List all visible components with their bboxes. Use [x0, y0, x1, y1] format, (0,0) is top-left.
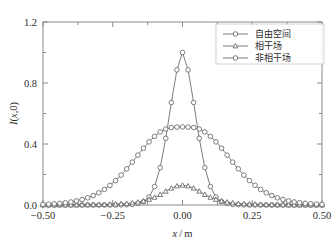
series-marker: [208, 184, 213, 189]
series-marker: [175, 68, 180, 73]
series-marker: [281, 197, 286, 202]
series-marker: [102, 187, 107, 192]
series-marker: [320, 202, 325, 207]
x-tick-label: −0.50: [31, 210, 55, 221]
series-marker: [69, 200, 74, 205]
x-tick-label: 0.00: [173, 210, 191, 221]
y-tick-label: 0.8: [24, 78, 37, 89]
series-marker: [269, 193, 274, 198]
x-tick-label: 0.50: [313, 210, 331, 221]
series-marker: [247, 178, 252, 183]
series-marker: [113, 178, 118, 183]
chart-legend: 自由空间相干场非相干场: [216, 24, 324, 64]
series-marker: [180, 50, 185, 55]
series-marker: [186, 68, 191, 73]
legend-label: 自由空间: [255, 28, 291, 39]
series-marker: [41, 202, 46, 207]
series-marker: [309, 201, 314, 206]
series-marker: [46, 202, 51, 207]
series-marker: [52, 201, 57, 206]
series-marker: [80, 197, 85, 202]
series-marker: [208, 134, 213, 139]
series-marker: [124, 167, 129, 172]
series-marker: [203, 130, 208, 135]
series-marker: [130, 160, 135, 165]
series-marker: [63, 200, 68, 205]
series-marker: [191, 125, 196, 130]
series-marker: [186, 125, 191, 130]
x-tick-label: 0.25: [243, 210, 261, 221]
series-marker: [191, 100, 196, 105]
series-marker: [169, 125, 174, 130]
legend-label: 非相干场: [255, 52, 291, 63]
series-marker: [152, 134, 157, 139]
series-marker: [197, 127, 202, 132]
series-marker: [169, 100, 174, 105]
series-marker: [253, 183, 258, 188]
series-marker: [242, 173, 247, 178]
series-marker: [297, 200, 302, 205]
series-marker: [85, 196, 90, 201]
series-marker: [152, 184, 157, 189]
series-marker: [147, 140, 152, 145]
series-marker: [303, 201, 308, 206]
series-marker: [91, 193, 96, 198]
series-marker: [163, 127, 168, 132]
legend-marker: [233, 32, 238, 37]
legend-marker: [233, 56, 238, 61]
x-axis-label: x / m: [172, 228, 193, 239]
series-marker: [180, 125, 185, 130]
y-tick-label: 0.4: [24, 139, 38, 150]
series-marker: [163, 136, 168, 141]
series-marker: [203, 165, 208, 170]
y-tick-label: 0.0: [24, 200, 37, 211]
series-marker: [74, 199, 79, 204]
series-marker: [286, 199, 291, 204]
series-marker: [158, 165, 163, 170]
series-marker: [158, 130, 163, 135]
x-tick-label: −0.25: [101, 210, 125, 221]
series-marker: [236, 167, 241, 172]
series-marker: [141, 146, 146, 151]
series-marker: [57, 201, 62, 206]
y-axis-label: I(x,0): [8, 101, 20, 126]
series-marker: [292, 200, 297, 205]
series-marker: [108, 183, 113, 188]
series-marker: [197, 136, 202, 141]
series-marker: [214, 140, 219, 145]
series-marker: [119, 173, 124, 178]
series-marker: [97, 191, 102, 196]
series-marker: [314, 202, 319, 207]
series-marker: [264, 191, 269, 196]
chart-figure: −0.50−0.250.000.250.50 0.00.40.81.2 x / …: [0, 0, 336, 250]
series-marker: [258, 187, 263, 192]
series-marker: [175, 125, 180, 130]
line-chart: −0.50−0.250.000.250.50 0.00.40.81.2 x / …: [0, 0, 336, 250]
series-marker: [230, 160, 235, 165]
y-tick-label: 1.2: [24, 17, 37, 28]
legend-label: 相干场: [255, 40, 282, 51]
series-marker: [219, 146, 224, 151]
series-marker: [225, 153, 230, 158]
series-marker: [136, 153, 141, 158]
series-marker: [275, 196, 280, 201]
